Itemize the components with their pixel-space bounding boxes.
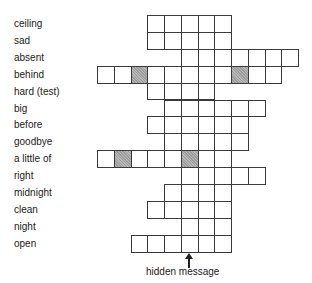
- grid-cell[interactable]: [198, 235, 216, 253]
- grid-cell[interactable]: [214, 150, 232, 168]
- grid-cell[interactable]: [147, 235, 165, 253]
- grid-cell-hidden-letter[interactable]: [131, 66, 149, 84]
- clue-label: big: [14, 103, 27, 115]
- grid-cell-hidden-letter[interactable]: [231, 66, 249, 84]
- grid-cell[interactable]: [181, 167, 199, 185]
- grid-cell[interactable]: [147, 116, 165, 134]
- grid-cell[interactable]: [181, 116, 199, 134]
- grid-cell[interactable]: [198, 49, 216, 67]
- grid-cell[interactable]: [164, 201, 182, 219]
- grid-cell[interactable]: [214, 133, 232, 151]
- clue-label: clean: [14, 204, 38, 216]
- grid-cell[interactable]: [231, 133, 249, 151]
- grid-cell[interactable]: [214, 235, 232, 253]
- grid-cell[interactable]: [181, 100, 199, 118]
- grid-cell[interactable]: [97, 150, 115, 168]
- grid-cell[interactable]: [198, 150, 216, 168]
- grid-cell[interactable]: [198, 66, 216, 84]
- grid-cell[interactable]: [198, 116, 216, 134]
- grid-cell[interactable]: [198, 201, 216, 219]
- grid-cell[interactable]: [164, 66, 182, 84]
- grid-cell[interactable]: [164, 100, 182, 118]
- clue-label: a little of: [14, 153, 51, 165]
- grid-cell[interactable]: [198, 184, 216, 202]
- grid-cell[interactable]: [214, 184, 232, 202]
- grid-cell[interactable]: [214, 218, 232, 236]
- grid-cell[interactable]: [248, 49, 266, 67]
- grid-cell[interactable]: [198, 167, 216, 185]
- crossword-puzzle: ceilingsadabsentbehindhard (test)bigbefo…: [0, 0, 312, 283]
- grid-cell[interactable]: [181, 66, 199, 84]
- clue-label: ceiling: [14, 18, 42, 30]
- grid-cell[interactable]: [181, 15, 199, 33]
- grid-cell[interactable]: [281, 49, 299, 67]
- clue-label: goodbye: [14, 136, 52, 148]
- clue-label: hard (test): [14, 86, 60, 98]
- grid-cell[interactable]: [147, 32, 165, 50]
- grid-cell[interactable]: [248, 100, 266, 118]
- grid-cell[interactable]: [164, 83, 182, 101]
- grid-cell[interactable]: [164, 32, 182, 50]
- grid-cell[interactable]: [265, 49, 283, 67]
- grid-cell[interactable]: [214, 49, 232, 67]
- grid-cell[interactable]: [181, 184, 199, 202]
- grid-cell[interactable]: [164, 15, 182, 33]
- grid-cell[interactable]: [214, 32, 232, 50]
- clue-label: before: [14, 119, 42, 131]
- grid-cell[interactable]: [131, 235, 149, 253]
- grid-cell[interactable]: [231, 167, 249, 185]
- grid-cell[interactable]: [198, 100, 216, 118]
- grid-cell[interactable]: [248, 66, 266, 84]
- grid-cell[interactable]: [265, 66, 283, 84]
- hidden-message-label: hidden message: [146, 266, 219, 278]
- grid-cell[interactable]: [164, 116, 182, 134]
- grid-cell[interactable]: [214, 167, 232, 185]
- grid-cell[interactable]: [248, 167, 266, 185]
- grid-cell-hidden-letter[interactable]: [181, 150, 199, 168]
- clue-label: night: [14, 221, 36, 233]
- clue-label: sad: [14, 35, 30, 47]
- grid-cell[interactable]: [231, 49, 249, 67]
- clue-label: midnight: [14, 187, 52, 199]
- grid-cell[interactable]: [181, 32, 199, 50]
- grid-cell[interactable]: [114, 66, 132, 84]
- grid-cell[interactable]: [181, 49, 199, 67]
- grid-cell-hidden-letter[interactable]: [114, 150, 132, 168]
- grid-cell[interactable]: [198, 32, 216, 50]
- grid-cell[interactable]: [214, 66, 232, 84]
- grid-cell[interactable]: [164, 235, 182, 253]
- grid-cell[interactable]: [214, 100, 232, 118]
- grid-cell[interactable]: [147, 150, 165, 168]
- grid-cell[interactable]: [231, 116, 249, 134]
- grid-cell[interactable]: [231, 100, 249, 118]
- grid-cell[interactable]: [214, 15, 232, 33]
- grid-cell[interactable]: [147, 15, 165, 33]
- grid-cell[interactable]: [181, 235, 199, 253]
- grid-cell[interactable]: [147, 201, 165, 219]
- clue-label: behind: [14, 69, 44, 81]
- clue-label: open: [14, 238, 36, 250]
- grid-cell[interactable]: [147, 83, 165, 101]
- grid-cell[interactable]: [97, 66, 115, 84]
- grid-cell[interactable]: [181, 218, 199, 236]
- grid-cell[interactable]: [131, 150, 149, 168]
- grid-cell[interactable]: [181, 83, 199, 101]
- grid-cell[interactable]: [214, 116, 232, 134]
- grid-cell[interactable]: [164, 184, 182, 202]
- clue-label: right: [14, 170, 33, 182]
- grid-cell[interactable]: [181, 133, 199, 151]
- grid-cell[interactable]: [147, 66, 165, 84]
- clue-label: absent: [14, 52, 44, 64]
- grid-cell[interactable]: [198, 218, 216, 236]
- grid-cell[interactable]: [198, 15, 216, 33]
- grid-cell[interactable]: [164, 133, 182, 151]
- grid-cell[interactable]: [198, 83, 216, 101]
- grid-cell[interactable]: [214, 201, 232, 219]
- grid-cell[interactable]: [164, 150, 182, 168]
- grid-cell[interactable]: [198, 133, 216, 151]
- grid-cell[interactable]: [181, 201, 199, 219]
